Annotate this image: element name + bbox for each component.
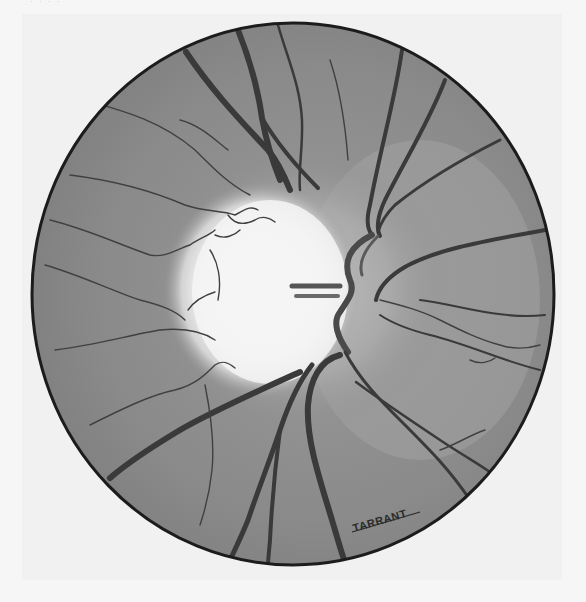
retina-field bbox=[32, 23, 554, 566]
figure-page: · · · · bbox=[0, 0, 586, 602]
fundus-illustration: TARRANT bbox=[0, 0, 586, 602]
